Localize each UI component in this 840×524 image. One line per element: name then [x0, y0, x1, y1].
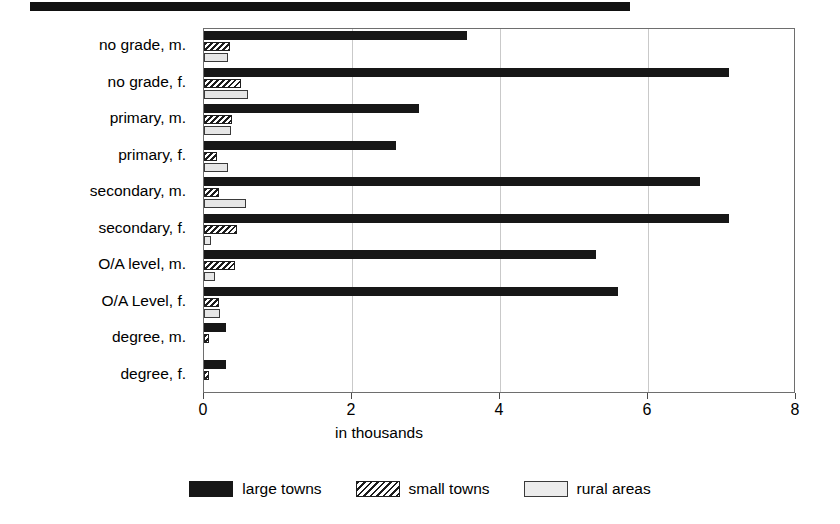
- x-tick-label: 4: [495, 401, 504, 419]
- bar-small: [204, 42, 230, 51]
- bar-rural: [204, 163, 228, 172]
- y-axis-label: primary, m.: [110, 110, 186, 126]
- legend-item-rural[interactable]: rural areas: [524, 480, 651, 498]
- legend-item-small[interactable]: small towns: [356, 480, 490, 498]
- bar-large: [204, 68, 729, 77]
- chart-legend: large townssmall townsrural areas: [0, 474, 840, 504]
- bar-large: [204, 360, 226, 369]
- y-axis-label: O/A level, m.: [98, 256, 186, 272]
- bar-rural: [204, 126, 231, 135]
- bar-large: [204, 323, 226, 332]
- bar-group: [204, 323, 794, 360]
- x-tick-mark: [499, 393, 500, 399]
- bar-small: [204, 152, 217, 161]
- bar-large: [204, 31, 467, 40]
- plot-area: [203, 28, 795, 393]
- bar-group: [204, 31, 794, 68]
- bar-group: [204, 141, 794, 178]
- legend-label-large: large towns: [242, 480, 321, 498]
- legend-item-large[interactable]: large towns: [189, 480, 321, 498]
- bar-group: [204, 214, 794, 251]
- bar-small: [204, 188, 219, 197]
- bar-rural: [204, 53, 228, 62]
- y-axis-label: primary, f.: [118, 147, 186, 163]
- x-tick-label: 0: [199, 401, 208, 419]
- y-axis-label: no grade, f.: [108, 74, 186, 90]
- bar-small: [204, 298, 219, 307]
- bar-small: [204, 79, 241, 88]
- bar-group: [204, 177, 794, 214]
- x-tick-mark: [351, 393, 352, 399]
- legend-label-rural: rural areas: [577, 480, 651, 498]
- legend-swatch-large: [189, 481, 233, 497]
- x-tick-label: 8: [791, 401, 800, 419]
- bar-rural: [204, 272, 215, 281]
- x-tick-mark: [203, 393, 204, 399]
- x-axis-title: in thousands: [0, 424, 840, 442]
- y-axis-category-labels: no grade, m.no grade, f.primary, m.prima…: [0, 28, 196, 393]
- x-axis-ticks: 02468: [0, 393, 840, 423]
- bar-large: [204, 287, 618, 296]
- legend-label-small: small towns: [409, 480, 490, 498]
- y-axis-label: no grade, m.: [99, 37, 186, 53]
- bar-large: [204, 141, 396, 150]
- bar-rural: [204, 199, 246, 208]
- bar-small: [204, 334, 209, 343]
- bar-large: [204, 214, 729, 223]
- bar-small: [204, 115, 232, 124]
- bar-rural: [204, 90, 248, 99]
- bar-small: [204, 225, 237, 234]
- x-tick-label: 2: [347, 401, 356, 419]
- bar-large: [204, 104, 419, 113]
- x-tick-mark: [647, 393, 648, 399]
- header-rule: [30, 2, 630, 11]
- bar-group: [204, 360, 794, 397]
- legend-swatch-rural: [524, 481, 568, 497]
- x-axis-title-text: in thousands: [335, 424, 423, 441]
- x-tick-mark: [795, 393, 796, 399]
- legend-swatch-small: [356, 481, 400, 497]
- y-axis-label: O/A Level, f.: [102, 293, 186, 309]
- y-axis-label: degree, m.: [112, 329, 186, 345]
- bar-small: [204, 371, 209, 380]
- bar-large: [204, 177, 700, 186]
- bar-large: [204, 250, 596, 259]
- bar-group: [204, 104, 794, 141]
- bar-group: [204, 287, 794, 324]
- bar-rural: [204, 236, 211, 245]
- bar-group: [204, 68, 794, 105]
- y-axis-label: secondary, m.: [90, 183, 186, 199]
- bar-rows: [204, 29, 794, 392]
- y-axis-label: degree, f.: [121, 366, 187, 382]
- bar-small: [204, 261, 235, 270]
- bar-chart-figure: no grade, m.no grade, f.primary, m.prima…: [0, 0, 840, 524]
- bar-rural: [204, 309, 220, 318]
- y-axis-label: secondary, f.: [98, 220, 186, 236]
- bar-group: [204, 250, 794, 287]
- x-tick-label: 6: [643, 401, 652, 419]
